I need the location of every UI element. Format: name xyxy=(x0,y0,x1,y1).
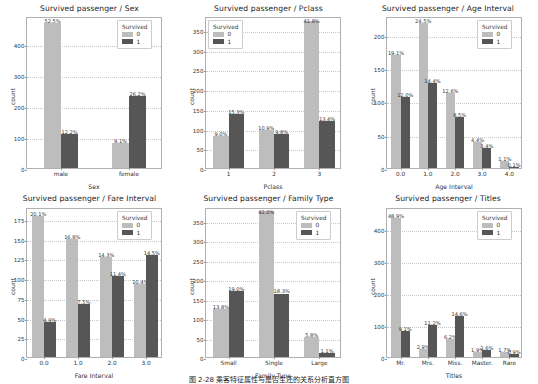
y-tick-mark xyxy=(25,359,27,360)
x-tick-label: Mr. xyxy=(396,360,405,366)
y-tick-mark xyxy=(204,301,206,302)
y-tick-mark xyxy=(204,111,206,112)
x-tick-mark xyxy=(428,168,429,170)
y-tick-label: 150 xyxy=(193,298,204,304)
bar-survived-1 xyxy=(274,134,289,168)
y-tick-mark xyxy=(204,262,206,263)
figure-caption: 图 2-28 乘客特征属性与是否生还的关系分析直方图 xyxy=(0,374,538,384)
x-tick-label: 3.0 xyxy=(141,360,150,366)
bar-value-label: 9.8% xyxy=(275,129,288,135)
bar-survived-0 xyxy=(391,218,400,357)
bar-survived-1 xyxy=(482,148,491,168)
x-tick-label: 0.0 xyxy=(396,171,405,177)
legend-item-label: 1 xyxy=(228,39,232,45)
x-tick-label: 2.0 xyxy=(107,360,116,366)
legend-item-1[interactable]: 1 xyxy=(213,39,238,45)
bar-value-label: 18.3% xyxy=(274,288,290,294)
legend-item-0[interactable]: 0 xyxy=(122,31,147,37)
legend-item-1[interactable]: 1 xyxy=(301,230,326,236)
y-tick-label: 0 xyxy=(200,167,204,173)
legend-item-1[interactable]: 1 xyxy=(482,230,507,236)
y-tick-label: 0 xyxy=(381,167,385,173)
y-tick-label: 200 xyxy=(14,105,25,111)
y-axis-label: count xyxy=(9,88,16,105)
bar-survived-0 xyxy=(213,309,228,357)
y-tick-label: 200 xyxy=(374,34,385,40)
bar-value-label: 14.6% xyxy=(452,311,468,317)
legend-item-1[interactable]: 1 xyxy=(122,230,147,236)
legend-item-0[interactable]: 0 xyxy=(482,222,507,228)
bar-value-label: 13.4% xyxy=(319,116,335,122)
bar-survived-1 xyxy=(428,83,437,168)
bar-value-label: 52.5% xyxy=(44,18,60,24)
bar-survived-0 xyxy=(213,136,228,168)
y-tick-mark xyxy=(25,139,27,140)
y-tick-mark xyxy=(204,223,206,224)
legend: Survived01 xyxy=(117,211,152,240)
legend-item-0[interactable]: 0 xyxy=(213,31,238,37)
legend-item-label: 1 xyxy=(137,230,141,236)
legend-title: Survived xyxy=(213,24,238,30)
y-tick-mark xyxy=(204,71,206,72)
chart-title: Survived passenger / Fare Interval xyxy=(0,194,179,203)
bar-value-label: 1.1% xyxy=(321,348,334,354)
bar-survived-1 xyxy=(401,97,410,168)
x-tick-label: 3 xyxy=(317,171,321,177)
bar-value-label: 26.2% xyxy=(129,91,145,97)
bar-value-label: 4.9% xyxy=(43,317,56,323)
bar-value-label: 9.0% xyxy=(214,131,227,137)
x-tick-mark xyxy=(44,357,45,359)
legend-item-1[interactable]: 1 xyxy=(482,39,507,45)
y-tick-label: 150 xyxy=(374,67,385,73)
bar-value-label: 20.1% xyxy=(30,211,46,217)
legend-item-0[interactable]: 0 xyxy=(301,222,326,228)
y-tick-label: 0 xyxy=(381,356,385,362)
y-tick-label: 100 xyxy=(193,317,204,323)
x-tick-label: Single xyxy=(265,360,283,366)
legend-item-0[interactable]: 0 xyxy=(122,222,147,228)
bar-value-label: 16.8% xyxy=(64,234,80,240)
y-tick-mark xyxy=(204,52,206,53)
y-tick-mark xyxy=(385,37,387,38)
y-tick-mark xyxy=(204,170,206,171)
x-tick-label: Small xyxy=(221,360,237,366)
chart-title: Survived passenger / Family Type xyxy=(179,194,358,203)
bar-value-label: 7.5% xyxy=(77,299,90,305)
bar-survived-0 xyxy=(419,23,428,168)
legend-item-0[interactable]: 0 xyxy=(482,31,507,37)
y-tick-mark xyxy=(204,91,206,92)
x-tick-label: 1.0 xyxy=(73,360,82,366)
y-tick-label: 0 xyxy=(21,356,25,362)
x-tick-label: Rare xyxy=(503,360,516,366)
x-tick-label: Mrs. xyxy=(422,360,434,366)
legend-item-1[interactable]: 1 xyxy=(122,39,147,45)
y-tick-mark xyxy=(385,295,387,296)
y-tick-mark xyxy=(204,32,206,33)
legend-item-label: 1 xyxy=(316,230,320,236)
chart-panel-family-type: Survived passenger / Family Type05010015… xyxy=(179,190,358,384)
y-tick-label: 100 xyxy=(193,128,204,134)
bar-survived-0 xyxy=(259,130,274,168)
x-tick-mark xyxy=(129,168,130,170)
bar-survived-0 xyxy=(112,143,129,168)
legend-title: Survived xyxy=(122,215,147,221)
x-tick-mark xyxy=(401,357,402,359)
y-tick-label: 300 xyxy=(193,239,204,245)
bar-survived-0 xyxy=(419,349,428,357)
legend-swatch-icon xyxy=(213,39,224,44)
y-tick-mark xyxy=(25,339,27,340)
bar-value-label: 8.5% xyxy=(453,112,466,118)
x-axis-label: Age Interval xyxy=(435,183,473,190)
bar-survived-0 xyxy=(446,93,455,168)
legend-swatch-icon xyxy=(122,230,133,235)
legend-swatch-icon xyxy=(213,32,224,37)
bar-value-label: 0.1% xyxy=(508,162,521,168)
x-tick-mark xyxy=(78,357,79,359)
legend-item-label: 0 xyxy=(497,31,501,37)
y-tick-mark xyxy=(25,77,27,78)
bar-survived-1 xyxy=(401,331,410,357)
bar-survived-1 xyxy=(112,276,124,357)
legend-swatch-icon xyxy=(482,230,493,235)
bar-survived-1 xyxy=(428,325,437,357)
bar-survived-1 xyxy=(274,294,289,358)
